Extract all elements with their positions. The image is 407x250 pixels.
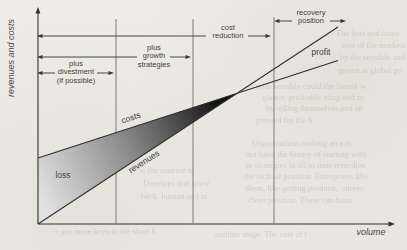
x-axis-arrowhead-icon — [389, 222, 396, 227]
cost-reduction-arrow-label: cost reduction — [213, 24, 244, 41]
divestment-arrow-label: plus divestment (if possible) — [57, 60, 95, 85]
growth-strategies-arrow-label-line: strategies — [138, 60, 171, 68]
profit-region-label: profit — [312, 48, 331, 57]
loss-region-label: loss — [55, 171, 70, 180]
y-axis-label: revenues and costs — [6, 19, 16, 97]
breakeven-diagram: The best and come tion of the markets by… — [0, 0, 407, 250]
cost-reduction-arrow-label-line: reduction — [213, 32, 244, 40]
recovery-position-arrow-label: recovery position — [297, 9, 326, 26]
y-axis-arrowhead-icon — [36, 7, 41, 14]
divestment-arrow-label-line: (if possible) — [57, 76, 95, 84]
growth-strategies-arrow-label: plus growth strategies — [138, 44, 171, 69]
diagram-canvas — [0, 0, 407, 250]
x-axis-label: volume — [356, 227, 385, 237]
recovery-position-arrow-label-line: position — [297, 17, 326, 25]
